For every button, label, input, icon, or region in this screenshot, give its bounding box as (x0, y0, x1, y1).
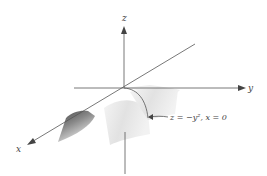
y-arrowhead (238, 85, 246, 91)
y-axis-label: y (247, 83, 254, 93)
curve-annotation: z = −y², x = 0 (169, 113, 227, 122)
diagram-svg: z y x z = −y², x = 0 (0, 0, 267, 176)
x-axis-label: x (16, 144, 21, 154)
parabolic-cylinder-diagram: z y x z = −y², x = 0 (0, 0, 267, 176)
z-axis-label: z (121, 13, 127, 23)
x-arrowhead (27, 138, 36, 145)
z-arrowhead (121, 26, 127, 34)
